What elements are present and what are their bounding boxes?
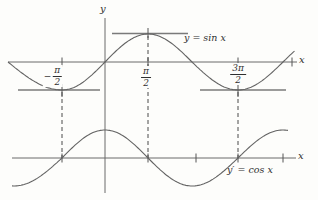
fraction-numerator: 3π [230, 63, 246, 75]
tick-label-3pi-over-2: 3π 2 [229, 63, 247, 85]
fraction-numerator: π [141, 66, 151, 78]
bottom-x-axis-label: x [298, 151, 304, 161]
sine-equation-label: y = sin x [184, 33, 226, 43]
fraction-denominator: 2 [54, 77, 60, 88]
fraction-denominator: 2 [143, 78, 149, 89]
top-x-axis-label: x [299, 55, 305, 65]
fraction-numerator: π [52, 65, 62, 77]
tick-label-pi-over-2: π 2 [140, 66, 152, 88]
dashed-connector-lines [62, 36, 238, 158]
figure-canvas: y x x y = sin x y′ = cos x − π 2 π 2 3π … [0, 0, 318, 200]
minus-sign: − [44, 71, 52, 81]
top-y-axis-label: y [100, 4, 106, 14]
tick-label-neg-pi-over-2: − π 2 [43, 65, 63, 87]
cosine-equation-label: y′ = cos x [227, 165, 273, 175]
fraction-denominator: 2 [235, 75, 241, 86]
